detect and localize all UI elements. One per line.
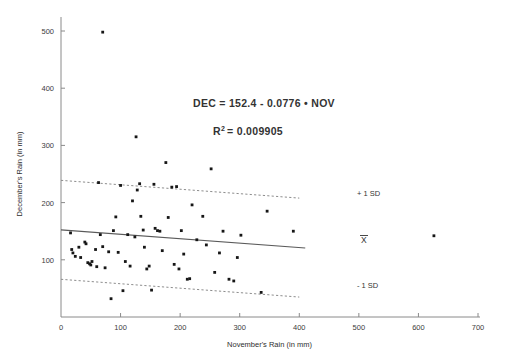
data-point	[114, 216, 117, 219]
data-point	[175, 185, 178, 188]
data-point	[153, 183, 156, 186]
x-tick-label: 700	[472, 323, 485, 332]
r-squared-symbol: R	[213, 125, 221, 137]
data-point	[188, 277, 191, 280]
data-point	[139, 215, 142, 218]
data-point	[107, 250, 110, 253]
x-tick-label: 100	[114, 323, 127, 332]
data-point	[101, 31, 104, 34]
x-axis-title: November's Rain (in mm)	[227, 340, 312, 349]
data-point	[158, 230, 161, 233]
data-point	[99, 233, 102, 236]
scatter-plot: 0100200300400500600700100200300400500 No…	[0, 0, 508, 363]
data-point	[104, 266, 107, 269]
data-points-layer	[69, 31, 435, 300]
data-point	[138, 182, 141, 185]
x-tick-label: 300	[233, 323, 246, 332]
data-point	[94, 248, 97, 251]
mean-label: X	[361, 235, 367, 245]
data-point	[110, 297, 113, 300]
data-point	[170, 186, 173, 189]
data-point	[72, 252, 75, 255]
data-point	[112, 229, 115, 232]
data-point	[173, 263, 176, 266]
lower-sd-line	[61, 279, 299, 297]
data-point	[129, 265, 132, 268]
data-point	[210, 167, 213, 170]
data-point	[136, 189, 139, 192]
data-point	[70, 248, 73, 251]
regression-line-layer	[61, 230, 305, 248]
data-point	[205, 244, 208, 247]
regression-equation: DEC = 152.4 - 0.0776 • NOV	[193, 97, 335, 109]
data-point	[180, 229, 183, 232]
data-point	[186, 278, 189, 281]
data-point	[182, 253, 185, 256]
data-point	[201, 215, 204, 218]
data-point	[97, 181, 100, 184]
y-tick-label: 300	[41, 141, 54, 150]
data-point	[145, 268, 148, 271]
data-point	[143, 246, 146, 249]
data-point	[124, 260, 127, 263]
regression-line	[61, 230, 305, 248]
data-point	[142, 229, 145, 232]
y-tick-label: 100	[41, 256, 54, 265]
x-tick-label: 600	[412, 323, 425, 332]
data-point	[101, 245, 104, 248]
x-tick-label: 200	[174, 323, 187, 332]
data-point	[89, 264, 92, 267]
y-tick-label: 500	[41, 27, 54, 36]
data-point	[135, 135, 138, 138]
data-point	[433, 234, 436, 237]
data-point	[156, 229, 159, 232]
data-point	[178, 268, 181, 271]
lower-sd-label: - 1 SD	[357, 281, 379, 290]
data-point	[266, 210, 269, 213]
axes-layer: 0100200300400500600700100200300400500	[41, 17, 484, 332]
data-point	[154, 227, 157, 230]
y-axis-title: December's Rain (in mm)	[15, 131, 24, 216]
data-point	[161, 249, 164, 252]
data-point	[218, 252, 221, 255]
upper-sd-line	[61, 180, 299, 198]
data-point	[167, 216, 170, 219]
x-tick-label: 0	[59, 323, 63, 332]
data-point	[79, 256, 82, 259]
x-tick-label: 500	[353, 323, 366, 332]
r-squared-exponent: 2	[221, 125, 225, 132]
chart-page: 0100200300400500600700100200300400500 No…	[0, 0, 508, 363]
data-point	[213, 271, 216, 274]
data-point	[232, 280, 235, 283]
data-point	[131, 199, 134, 202]
data-point	[119, 184, 122, 187]
y-tick-label: 200	[41, 199, 54, 208]
upper-sd-label: + 1 SD	[357, 189, 381, 198]
data-point	[117, 251, 120, 254]
labels-layer: November's Rain (in mm)December's Rain (…	[15, 97, 381, 349]
data-point	[126, 233, 129, 236]
data-point	[191, 203, 194, 206]
data-point	[148, 265, 151, 268]
x-tick-label: 400	[293, 323, 306, 332]
data-point	[222, 230, 225, 233]
data-point	[77, 246, 80, 249]
data-point	[240, 234, 243, 237]
data-point	[69, 232, 72, 235]
y-tick-label: 400	[41, 84, 54, 93]
r-squared-value: = 0.009905	[227, 125, 283, 137]
data-point	[85, 242, 88, 245]
data-point	[95, 265, 98, 268]
data-point	[122, 289, 125, 292]
data-point	[133, 236, 136, 239]
data-point	[195, 238, 198, 241]
data-point	[260, 291, 263, 294]
data-point	[292, 230, 295, 233]
data-point	[164, 161, 167, 164]
data-point	[236, 256, 239, 259]
r-squared-annotation: R2= 0.009905	[213, 125, 283, 137]
data-point	[74, 255, 77, 258]
data-point	[91, 260, 94, 263]
data-point	[228, 278, 231, 281]
data-point	[150, 289, 153, 292]
